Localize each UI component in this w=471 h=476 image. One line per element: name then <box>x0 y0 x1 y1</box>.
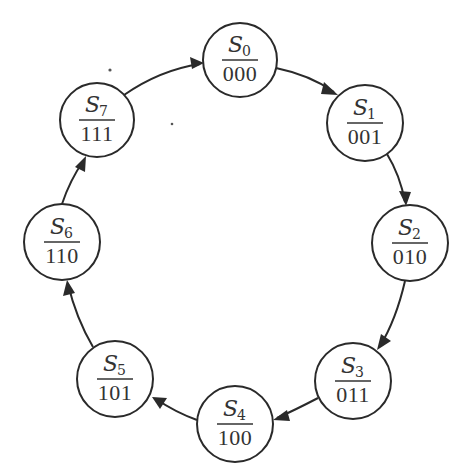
arrowhead-icon <box>152 397 167 409</box>
state-code: 101 <box>98 380 133 405</box>
state-name: S <box>228 32 243 57</box>
state-s5: S 5 101 <box>77 341 153 417</box>
state-diagram: S 0 000 S 1 001 S 2 010 S 3 011 S 4 100 … <box>0 0 471 476</box>
state-subscript: 3 <box>355 364 364 380</box>
state-code: 001 <box>348 124 383 149</box>
arrowhead-icon <box>273 410 290 421</box>
arrowhead-icon <box>321 82 338 95</box>
state-name: S <box>341 353 356 378</box>
state-name: S <box>398 215 413 240</box>
state-s6: S 6 110 <box>24 204 100 280</box>
arrowhead-icon <box>63 280 75 296</box>
state-s1: S 1 001 <box>327 85 403 161</box>
stray-mark <box>108 68 111 71</box>
state-code: 100 <box>218 425 253 450</box>
state-name: S <box>103 351 118 376</box>
state-code: 011 <box>336 382 370 407</box>
state-code: 111 <box>81 121 114 146</box>
state-s7: S 7 111 <box>60 83 134 157</box>
state-subscript: 5 <box>117 362 126 378</box>
state-subscript: 0 <box>242 43 251 59</box>
state-name: S <box>85 92 100 117</box>
state-code: 010 <box>393 244 428 269</box>
state-code: 110 <box>45 243 79 268</box>
arrowhead-icon <box>190 57 204 69</box>
state-subscript: 6 <box>64 225 73 241</box>
state-s4: S 4 100 <box>197 386 273 462</box>
state-name: S <box>50 214 65 239</box>
arrowhead-icon <box>377 334 391 350</box>
state-s0: S 0 000 <box>203 23 277 97</box>
state-subscript: 4 <box>237 407 246 423</box>
state-subscript: 7 <box>99 103 108 119</box>
state-code: 000 <box>223 61 258 86</box>
stray-mark <box>171 123 174 126</box>
state-s2: S 2 010 <box>372 205 448 281</box>
state-subscript: 2 <box>412 226 421 242</box>
state-subscript: 1 <box>367 106 376 122</box>
arrowhead-icon <box>399 191 411 206</box>
state-s3: S 3 011 <box>315 343 391 419</box>
state-name: S <box>353 95 368 120</box>
transition-s7-s0 <box>124 64 200 95</box>
state-name: S <box>223 396 238 421</box>
